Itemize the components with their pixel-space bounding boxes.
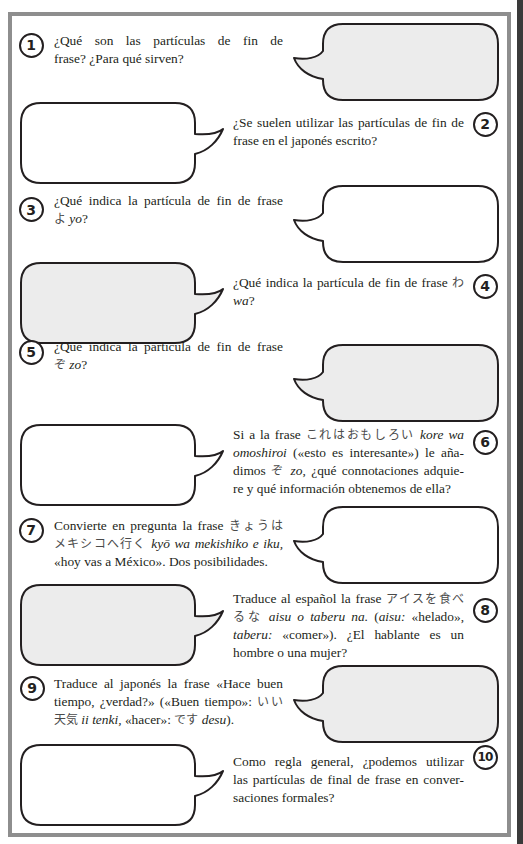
answer-speech-bubble <box>292 343 500 423</box>
text-segment: re y qué información obtenemos de ella? <box>233 481 451 496</box>
question-number-badge: 10 <box>473 745 498 770</box>
japanese-text: きょうは <box>229 519 283 533</box>
question-text: ¿Se suelen utilizar las partículas de fi… <box>233 114 464 150</box>
text-segment: ). <box>226 712 234 727</box>
question-text-line: よ yo? <box>54 210 283 228</box>
question-text: ¿Qué indica la partícula de fin de frase… <box>54 338 283 374</box>
text-segment: Si a la frase <box>233 427 306 442</box>
text-segment: «hacer»: <box>122 712 175 727</box>
answer-speech-bubble <box>292 184 500 264</box>
romaji-text: aisu: <box>379 609 406 624</box>
text-segment: hombre o una mujer? <box>233 645 347 660</box>
question-text: ¿Qué indica la partícula de fin de frase… <box>233 274 464 310</box>
question-text-line: wa? <box>233 292 464 310</box>
answer-speech-bubble <box>19 261 226 345</box>
question-text-line: las partículas de final de frase en conv… <box>233 771 464 789</box>
answer-speech-bubble <box>19 423 226 507</box>
text-segment: Como regla general, ¿podemos utilizar <box>233 754 464 769</box>
japanese-text: 天気 <box>54 713 78 727</box>
text-segment: «hoy vas a México». Dos posibilidades. <box>54 554 268 569</box>
question-text: Como regla general, ¿podemos utilizarlas… <box>233 753 464 808</box>
question-number-badge: 5 <box>19 340 44 365</box>
question-text-line: ¿Qué indica la partícula de fin de frase <box>54 338 283 356</box>
question-text-line: hombre o una mujer? <box>233 644 464 662</box>
question-text-line: frase? ¿Para qué sirven? <box>54 50 283 68</box>
romaji-text: yo <box>69 211 82 226</box>
question-text-line: «hoy vas a México». Dos posibilidades. <box>54 553 283 571</box>
text-segment: ¿Qué indica la partícula de fin de frase <box>233 275 452 290</box>
text-segment: , ¿qué connotaciones adquie- <box>302 463 464 478</box>
question-number-badge: 6 <box>473 430 498 455</box>
question-text-line: ¿Qué son las partículas de fin de <box>54 32 283 50</box>
text-segment: ¿Qué indica la partícula de fin de frase <box>54 193 283 208</box>
text-segment: («esto es interesante») le aña- <box>287 445 464 460</box>
worksheet-page: 1 ¿Qué son las partículas de fin defrase… <box>0 0 523 844</box>
romaji-text: wa <box>233 293 249 308</box>
romaji-text: kore wa <box>420 427 464 442</box>
question-text: Traduce al japonés la frase «Hace buenti… <box>54 675 283 730</box>
question-text-line: dimos ぞ zo, ¿qué connotaciones adquie- <box>233 462 464 480</box>
japanese-text: アイスを食べ <box>386 592 464 606</box>
question-number-badge: 9 <box>20 676 45 701</box>
text-segment: «helado», <box>405 609 464 624</box>
japanese-text: るな <box>233 610 263 624</box>
question-number-badge: 3 <box>19 197 44 222</box>
text-segment: frase? ¿Para qué sirven? <box>54 51 184 66</box>
answer-speech-bubble <box>292 22 500 102</box>
text-segment: ? <box>81 357 87 372</box>
question-number-badge: 1 <box>19 33 44 58</box>
text-segment: ? <box>82 211 88 226</box>
text-segment: ¿Qué indica la partícula de fin de frase <box>54 339 283 354</box>
romaji-text: zo <box>291 463 303 478</box>
japanese-text: です <box>174 713 198 727</box>
question-text: Si a la frase これはおもしろい kore waomoshiroi … <box>233 426 464 499</box>
question-text-line: omoshiroi («esto es interesante») le aña… <box>233 444 464 462</box>
text-segment: ¿Qué son las partículas de fin de <box>54 33 283 48</box>
text-segment: las partículas de final de frase en conv… <box>233 772 464 787</box>
question-text-line: Traduce al japonés la frase «Hace buen <box>54 675 283 693</box>
answer-speech-bubble <box>19 101 226 185</box>
question-text-line: taberu: «comer»). ¿El hablante es un <box>233 626 464 644</box>
question-text-line: ¿Qué indica la partícula de fin de frase… <box>233 274 464 292</box>
romaji-text: kyō wa mekishiko e iku, <box>151 536 283 551</box>
text-segment: «comer»). ¿El hablante es un <box>272 627 464 642</box>
question-text: Convierte en pregunta la frase きょうはメキシコへ… <box>54 517 283 572</box>
japanese-text: いい <box>257 695 283 709</box>
page-edge-strip <box>517 0 523 844</box>
question-text: ¿Qué son las partículas de fin defrase? … <box>54 32 283 68</box>
question-text: ¿Qué indica la partícula de fin de frase… <box>54 192 283 228</box>
question-text-line: ¿Se suelen utilizar las partículas de fi… <box>233 114 464 132</box>
text-segment: tiempo, ¿verdad?» («Buen tiempo»: <box>54 694 257 709</box>
romaji-text: omoshiroi <box>233 445 287 460</box>
japanese-text: ぞ <box>54 358 66 372</box>
answer-speech-bubble <box>19 583 226 667</box>
text-segment: Traduce al japonés la frase «Hace buen <box>54 676 283 691</box>
answer-speech-bubble <box>292 505 500 585</box>
text-segment: frase en el japonés escrito? <box>233 133 377 148</box>
question-text-line: ¿Qué indica la partícula de fin de frase <box>54 192 283 210</box>
japanese-text: メキシコへ行く <box>54 537 147 551</box>
japanese-text: これはおもしろい <box>306 428 415 442</box>
text-segment: Convierte en pregunta la frase <box>54 518 229 533</box>
romaji-text: ii tenki, <box>81 712 121 727</box>
question-text-line: Como regla general, ¿podemos utilizar <box>233 753 464 771</box>
text-segment: Traduce al español la frase <box>233 591 386 606</box>
question-text-line: ぞ zo? <box>54 356 283 374</box>
japanese-text: わ <box>452 276 464 290</box>
text-segment: ¿Se suelen utilizar las partículas de fi… <box>233 115 464 130</box>
question-number-badge: 2 <box>473 112 498 137</box>
question-text-line: frase en el japonés escrito? <box>233 132 464 150</box>
question-text-line: saciones formales? <box>233 789 464 807</box>
romaji-text: aisu o taberu na. <box>269 609 368 624</box>
question-text-line: Traduce al español la frase アイスを食べ <box>233 590 464 608</box>
romaji-text: taberu: <box>233 627 272 642</box>
romaji-text: desu <box>202 712 227 727</box>
question-number-badge: 8 <box>473 598 498 623</box>
question-text-line: 天気 ii tenki, «hacer»: です desu). <box>54 711 283 729</box>
text-segment: saciones formales? <box>233 790 335 805</box>
question-text-line: re y qué información obtenemos de ella? <box>233 480 464 498</box>
question-number-badge: 4 <box>473 274 498 299</box>
question-text-line: tiempo, ¿verdad?» («Buen tiempo»: いい <box>54 693 283 711</box>
answer-speech-bubble <box>292 664 500 744</box>
text-segment: ? <box>249 293 255 308</box>
